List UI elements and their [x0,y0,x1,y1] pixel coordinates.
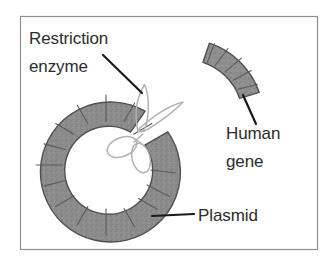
leader-line-human-gene [243,95,256,124]
plasmid-ring [36,95,180,242]
restriction-enzyme-label-line1: Restriction [29,29,108,48]
human-gene-label-line2: gene [226,152,263,171]
restriction-enzyme-label-line2: enzyme [29,57,88,76]
plasmid-ring-body [40,102,180,242]
plasmid-label: Plasmid [198,206,258,225]
diagram-figure: Restriction enzyme Human gene Plasmid [0,0,331,264]
human-gene-fragment [203,43,259,98]
human-gene-label-line1: Human [226,124,280,143]
label-plasmid: Plasmid [198,206,258,225]
diagram-canvas: Restriction enzyme Human gene Plasmid [0,0,331,264]
scissors-pivot [133,134,144,144]
label-human-gene: Human gene [226,124,280,171]
scissors-loop-left [104,132,140,161]
label-restriction-enzyme: Restriction enzyme [29,29,108,76]
leader-line-restriction-enzyme [103,55,142,93]
